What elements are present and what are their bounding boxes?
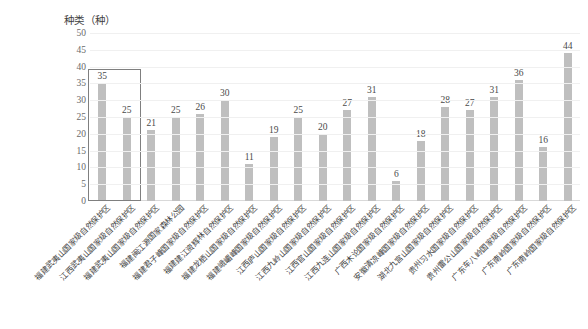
bar-value-label: 26	[196, 102, 206, 112]
y-axis-tick-label: 25	[77, 112, 87, 122]
y-axis-tick-label: 40	[77, 62, 87, 72]
bar[interactable]	[245, 164, 253, 201]
bar[interactable]	[368, 97, 376, 201]
bar-value-label: 25	[122, 105, 132, 115]
bar[interactable]	[441, 107, 449, 201]
bar-value-label: 11	[245, 152, 254, 162]
y-axis-tick-label: 45	[77, 45, 87, 55]
bar[interactable]	[123, 117, 131, 201]
bar[interactable]	[564, 53, 572, 201]
bar-value-label: 6	[394, 169, 399, 179]
y-axis-tick-label: 20	[77, 129, 87, 139]
bar[interactable]	[490, 97, 498, 201]
bar-value-label: 25	[171, 105, 181, 115]
bar-value-label: 30	[220, 88, 230, 98]
gridline	[90, 151, 580, 152]
bar[interactable]	[172, 117, 180, 201]
bar[interactable]	[539, 147, 547, 201]
bar[interactable]	[294, 117, 302, 201]
y-axis-tick-label: 30	[77, 95, 87, 105]
bar-value-label: 35	[98, 71, 108, 81]
y-axis-tick-label: 35	[77, 78, 87, 88]
y-axis-tick-label: 15	[77, 146, 87, 156]
bar[interactable]	[515, 80, 523, 201]
y-axis-tick-label: 5	[81, 179, 86, 189]
bar-value-label: 36	[514, 68, 524, 78]
bar-value-label: 25	[294, 105, 304, 115]
y-axis-title: 种类（种）	[64, 12, 116, 27]
gridline	[90, 134, 580, 135]
bar-value-label: 16	[539, 135, 549, 145]
gridline	[90, 100, 580, 101]
gridline	[90, 50, 580, 51]
x-axis-labels: 福建武夷山国家级自然保护区江西武夷山国家级自然保护区福建武夷山国家级自然保护区福…	[90, 203, 580, 323]
bar[interactable]	[343, 110, 351, 201]
bar[interactable]	[270, 137, 278, 201]
y-axis-tick-label: 0	[81, 196, 86, 206]
gridline	[90, 67, 580, 68]
y-axis: 05101520253035404550	[62, 33, 88, 201]
y-axis-tick-label: 10	[77, 162, 87, 172]
plot-area: 352521252630111925202731618282731361644	[90, 33, 580, 201]
bar-value-label: 31	[490, 85, 500, 95]
bar-chart: 种类（种） 05101520253035404550 3525212526301…	[0, 0, 588, 329]
bar[interactable]	[196, 114, 204, 201]
bar[interactable]	[417, 141, 425, 201]
gridline	[90, 83, 580, 84]
bar-value-label: 20	[318, 122, 328, 132]
y-axis-tick-label: 50	[77, 28, 87, 38]
bar[interactable]	[466, 110, 474, 201]
gridline	[90, 33, 580, 34]
gridline	[90, 117, 580, 118]
bar-value-label: 21	[147, 118, 157, 128]
gridline	[90, 167, 580, 168]
bar[interactable]	[147, 130, 155, 201]
gridline	[90, 184, 580, 185]
bar-value-label: 31	[367, 85, 377, 95]
